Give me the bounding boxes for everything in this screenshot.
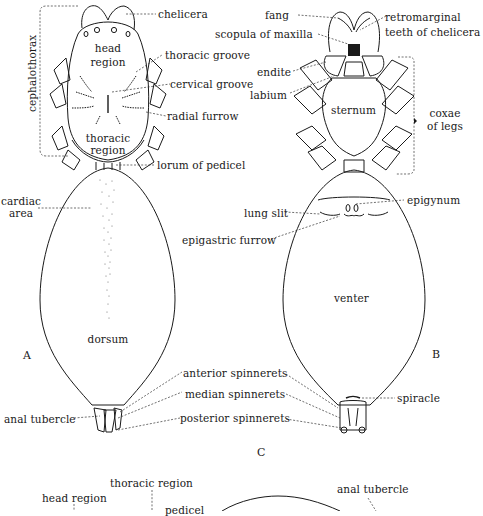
label-anterior-spinnerets: anterior spinnerets bbox=[183, 367, 287, 379]
panel-label-c: C bbox=[257, 447, 266, 459]
panel-label-b: B bbox=[432, 349, 440, 361]
label-pedicel-lateral: pedicel bbox=[165, 504, 204, 516]
label-head-region-line1: head bbox=[88, 42, 128, 54]
label-endite: endite bbox=[257, 66, 291, 78]
label-thoracic-region-line2: region bbox=[84, 144, 132, 156]
label-scopula-of-maxilla: scopula of maxilla bbox=[215, 28, 313, 40]
label-head-region-line2: region bbox=[84, 56, 132, 68]
label-cardiac-area-line2: area bbox=[0, 207, 42, 219]
label-chelicera: chelicera bbox=[158, 8, 208, 20]
label-anal-tubercle-lateral: anal tubercle bbox=[337, 483, 409, 495]
label-retromarginal-line2: teeth of chelicera bbox=[385, 26, 480, 38]
label-lung-slit: lung slit bbox=[244, 207, 288, 219]
label-venter: venter bbox=[334, 292, 369, 304]
label-retromarginal-line1: retromarginal bbox=[385, 11, 461, 23]
label-anal-tubercle-dorsal: anal tubercle bbox=[4, 413, 76, 425]
label-coxae-line1: coxae bbox=[420, 107, 470, 119]
label-thoracic-groove: thoracic groove bbox=[165, 49, 250, 61]
label-cervical-groove: cervical groove bbox=[170, 78, 253, 90]
ventral-view-drawing bbox=[283, 12, 425, 433]
label-dorsum: dorsum bbox=[82, 333, 134, 345]
dorsal-view-drawing bbox=[40, 6, 175, 432]
label-thoracic-region-line1: thoracic bbox=[80, 132, 136, 144]
label-coxae-line2: of legs bbox=[420, 120, 470, 132]
panel-label-a: A bbox=[23, 350, 31, 362]
label-thoracic-region-lateral: thoracic region bbox=[110, 477, 193, 489]
label-median-spinnerets: median spinnerets bbox=[185, 388, 285, 400]
lateral-view-drawing bbox=[222, 496, 340, 511]
label-cephalothorax: cephalothorax bbox=[26, 35, 38, 112]
label-posterior-spinnerets: posterior spinnerets bbox=[180, 412, 290, 424]
label-epigynum: epigynum bbox=[407, 194, 460, 206]
label-epigastric-furrow: epigastric furrow bbox=[182, 234, 276, 246]
label-lorum-of-pedicel: lorum of pedicel bbox=[157, 159, 245, 171]
label-head-region-lateral: head region bbox=[42, 492, 107, 504]
label-cardiac-area-line1: cardiac bbox=[0, 195, 42, 207]
label-sternum: sternum bbox=[331, 104, 376, 116]
label-spiracle: spiracle bbox=[397, 392, 440, 404]
label-radial-furrow: radial furrow bbox=[167, 110, 239, 122]
label-fang: fang bbox=[265, 9, 289, 21]
label-labium: labium bbox=[250, 89, 287, 101]
